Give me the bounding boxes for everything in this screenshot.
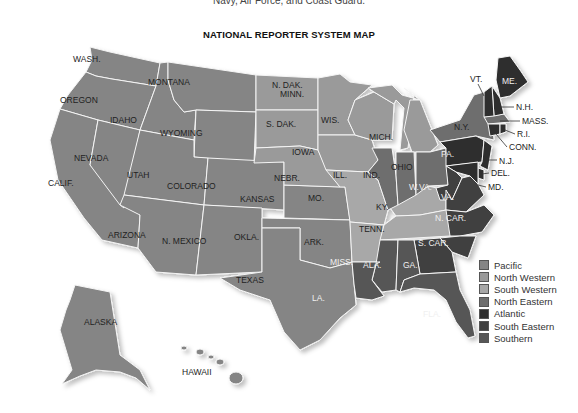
label-oregon: OREGON [60, 95, 98, 105]
label-ky: KY. [376, 202, 389, 212]
label-ala: ALA. [363, 260, 381, 270]
state-ri[interactable] [500, 124, 506, 134]
swatch-atlantic [479, 309, 489, 319]
state-mich-lower[interactable] [404, 100, 438, 152]
legend-item-south-eastern: South Eastern [479, 320, 557, 332]
label-vt: VT. [470, 74, 482, 84]
label-sdak: S. DAK. [266, 119, 296, 129]
legend-item-atlantic: Atlantic [479, 308, 557, 320]
label-wash: WASH. [73, 54, 101, 64]
legend-label: North Western [494, 272, 555, 283]
label-colorado: COLORADO [167, 181, 216, 191]
leader-conn [496, 134, 507, 147]
legend-label: Southern [494, 333, 533, 344]
label-mo: MO. [308, 193, 324, 203]
label-scar: S. CAR. [418, 238, 449, 248]
state-sdak[interactable] [256, 110, 318, 150]
label-va: VA. [441, 192, 454, 202]
legend-label: Atlantic [494, 308, 525, 319]
label-nebr: NEBR. [274, 173, 300, 183]
label-nmexico: N. MEXICO [162, 236, 207, 246]
label-nh: N.H. [516, 102, 533, 112]
label-texas: TEXAS [236, 275, 264, 285]
label-tenn: TENN. [359, 224, 385, 234]
legend: Pacific North Western South Western Nort… [479, 259, 557, 344]
label-wva: W.VA. [409, 182, 432, 192]
label-idaho: IDAHO [110, 115, 137, 125]
state-montana[interactable] [168, 62, 256, 112]
state-vt[interactable] [484, 86, 494, 117]
state-wyoming[interactable] [194, 110, 256, 163]
swatch-north-eastern [479, 297, 489, 307]
legend-label: South Eastern [494, 321, 554, 332]
label-fla: FLA. [423, 309, 441, 319]
legend-label: South Western [494, 284, 557, 295]
label-ind: IND. [363, 170, 380, 180]
label-arizona: ARIZONA [108, 230, 146, 240]
label-ga: GA. [403, 260, 418, 270]
state-conn[interactable] [488, 124, 500, 136]
label-conn: CONN. [509, 142, 536, 152]
label-okla: OKLA. [234, 232, 259, 242]
label-miss: MISS. [330, 257, 353, 267]
label-ny: N.Y. [454, 122, 469, 132]
swatch-south-western [479, 284, 489, 294]
swatch-pacific [479, 260, 489, 270]
label-alaska: ALASKA [84, 317, 117, 327]
legend-item-southern: Southern [479, 332, 557, 344]
legend-label: North Eastern [494, 296, 553, 307]
label-montana: MONTANA [148, 77, 190, 87]
label-ri: R.I. [517, 129, 530, 139]
label-kansas: KANSAS [240, 194, 275, 204]
swatch-north-western [479, 272, 489, 282]
swatch-south-eastern [479, 321, 489, 331]
label-ncar: N. CAR. [435, 213, 466, 223]
label-del: DEL. [491, 168, 510, 178]
legend-item-north-western: North Western [479, 271, 557, 283]
label-wyoming: WYOMING [160, 128, 203, 138]
swatch-southern [479, 333, 489, 343]
state-ind[interactable] [396, 152, 416, 205]
label-minn: MINN. [280, 89, 304, 99]
label-calif: CALIF. [48, 178, 74, 188]
label-me: ME. [502, 76, 517, 86]
label-ill: ILL. [333, 170, 347, 180]
label-hawaii: HAWAII [182, 367, 212, 377]
label-wis: WIS. [321, 115, 339, 125]
us-map: WASH. OREGON CALIF. NEVADA IDAHO MONTANA… [0, 0, 578, 413]
label-utah: UTAH [127, 170, 150, 180]
label-md: MD. [488, 182, 504, 192]
legend-item-south-western: South Western [479, 283, 557, 295]
legend-label: Pacific [494, 260, 522, 271]
label-nevada: NEVADA [74, 153, 109, 163]
state-hawaii[interactable] [181, 346, 243, 384]
state-fla[interactable] [400, 272, 475, 338]
label-pa: PA. [441, 149, 454, 159]
label-la: LA. [312, 293, 325, 303]
label-iowa: IOWA [292, 147, 315, 157]
label-nj: N.J. [499, 156, 514, 166]
label-ark: ARK. [304, 237, 324, 247]
label-mich: MICH. [369, 132, 393, 142]
legend-item-pacific: Pacific [479, 259, 557, 271]
legend-item-north-eastern: North Eastern [479, 296, 557, 308]
label-mass: MASS. [522, 116, 548, 126]
state-alaska[interactable] [60, 285, 150, 390]
label-ohio: OHIO [391, 162, 413, 172]
